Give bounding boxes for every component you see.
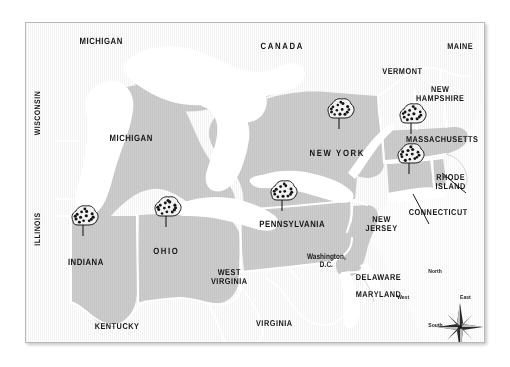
- tree-fruit-dot: [80, 211, 83, 214]
- tree-fruit-dot: [91, 212, 94, 215]
- tree-fruit-dot: [400, 153, 403, 156]
- tree-fruit-dot: [409, 145, 412, 148]
- compass-label-north: North: [428, 268, 441, 274]
- compass-label-west: West: [397, 294, 409, 300]
- map-label-vermont: VERMONT: [382, 67, 422, 76]
- tree-fruit-dot: [330, 108, 333, 111]
- tree-fruit-dot: [418, 154, 421, 157]
- tree-fruit-dot: [287, 195, 290, 198]
- compass-label-south: South: [428, 322, 442, 328]
- tree-fruit-dot: [283, 183, 286, 186]
- map-label-maryland: MARYLAND: [356, 290, 402, 299]
- tree-fruit-dot: [74, 215, 77, 218]
- tree-fruit-dot: [83, 208, 86, 211]
- map-label-ohio: OHIO: [153, 247, 179, 256]
- tree-fruit-dot: [290, 188, 293, 191]
- tree-fruit-dot: [338, 113, 341, 116]
- tree-fruit-dot: [85, 214, 88, 217]
- tree-fruit-dot: [277, 196, 280, 199]
- map-frame: MICHIGANCANADAMAINEVERMONTNEW HAMPSHIREW…: [25, 22, 485, 343]
- map-label-new-hampshire: NEW HAMPSHIRE: [416, 85, 465, 102]
- tree-fruit-dot: [279, 185, 282, 188]
- tree-fruit-dot: [168, 206, 171, 209]
- tree-fruit-dot: [78, 221, 81, 224]
- map-label-new-jersey: NEW JERSEY: [366, 215, 398, 232]
- tree-fruit-dot: [340, 101, 343, 104]
- compass-label-east: East: [460, 294, 471, 300]
- tree-fruit-dot: [404, 159, 407, 162]
- tree-fruit-dot: [282, 195, 285, 198]
- tree-fruit-dot: [407, 113, 410, 116]
- tree-fruit-dot: [406, 154, 409, 157]
- map-label-canada: CANADA: [261, 42, 304, 51]
- map-label-delaware: DELAWARE: [356, 273, 402, 282]
- map-label-virginia: VIRGINIA: [256, 319, 293, 328]
- map-label-new-york: NEW YORK: [310, 149, 366, 158]
- tree-fruit-dot: [167, 199, 170, 202]
- tree-fruit-dot: [75, 217, 78, 220]
- map-label-wisconsin: WISCONSIN: [34, 91, 42, 135]
- map-label-michigan-lower: MICHIGAN: [110, 134, 153, 143]
- tree-fruit-dot: [419, 111, 422, 114]
- tree-fruit-dot: [346, 105, 349, 108]
- tree-fruit-dot: [279, 190, 282, 193]
- tree-fruit-dot: [333, 113, 336, 116]
- tree-fruit-dot: [173, 204, 176, 207]
- tree-fruit-dot: [414, 107, 417, 110]
- tree-fruit-dot: [273, 193, 276, 196]
- tree-fruit-dot: [401, 155, 404, 158]
- tree-fruit-dot: [171, 210, 174, 213]
- map-label-west-virginia: WEST VIRGINIA: [211, 268, 248, 285]
- tree-fruit-dot: [330, 111, 333, 114]
- tree-fruit-dot: [401, 150, 404, 153]
- map-label-indiana: INDIANA: [68, 258, 104, 267]
- tree-fruit-dot: [336, 109, 339, 112]
- tree-fruit-dot: [88, 219, 91, 222]
- tree-fruit-dot: [346, 111, 349, 114]
- tree-fruit-dot: [341, 108, 344, 111]
- map-label-illinois: ILLINOIS: [34, 212, 42, 245]
- tree-fruit-dot: [402, 112, 405, 115]
- tree-fruit-dot: [273, 190, 276, 193]
- tree-fruit-dot: [156, 206, 159, 209]
- map-label-michigan-upper: MICHIGAN: [80, 37, 123, 46]
- tree-fruit-dot: [419, 114, 422, 117]
- tree-fruit-dot: [82, 219, 85, 222]
- map-label-washington-dc: Washington, D.C.: [307, 253, 346, 269]
- tree-fruit-dot: [409, 158, 412, 161]
- tree-fruit-dot: [348, 108, 351, 111]
- tree-fruit-dot: [174, 206, 177, 209]
- tree-fruit-dot: [408, 109, 411, 112]
- tree-fruit-dot: [159, 204, 162, 207]
- tree-fruit-dot: [412, 105, 415, 108]
- tree-fruit-dot: [406, 118, 409, 121]
- tree-fruit-dot: [85, 210, 88, 213]
- tree-fruit-dot: [417, 151, 420, 154]
- tree-fruit-dot: [332, 106, 335, 109]
- tree-fruit-dot: [407, 149, 410, 152]
- tree-fruit-dot: [163, 207, 166, 210]
- tree-fruit-dot: [416, 117, 419, 120]
- tree-fruit-dot: [290, 191, 293, 194]
- tree-fruit-dot: [79, 216, 82, 219]
- map-label-maine: MAINE: [447, 42, 473, 51]
- tree-fruit-dot: [337, 104, 340, 107]
- map-label-pennsylvania: PENNSYLVANIA: [259, 220, 325, 229]
- tree-fruit-dot: [411, 153, 414, 156]
- tree-fruit-dot: [161, 212, 164, 215]
- tree-fruit-dot: [343, 113, 346, 116]
- map-label-rhode-island: RHODE ISLAND: [435, 173, 465, 190]
- tree-fruit-dot: [166, 210, 169, 213]
- map-label-massachusetts: MASSACHUSETTS: [406, 135, 479, 144]
- tree-fruit-dot: [411, 148, 414, 151]
- tree-fruit-dot: [92, 216, 95, 219]
- tree-fruit-dot: [164, 202, 167, 205]
- tree-fruit-dot: [413, 157, 416, 160]
- tree-fruit-dot: [410, 117, 413, 120]
- tree-fruit-dot: [412, 112, 415, 115]
- tree-fruit-dot: [403, 116, 406, 119]
- map-label-connecticut: CONNECTICUT: [409, 208, 468, 217]
- tree-fruit-dot: [283, 190, 286, 193]
- map-label-kentucky: KENTUCKY: [95, 322, 140, 331]
